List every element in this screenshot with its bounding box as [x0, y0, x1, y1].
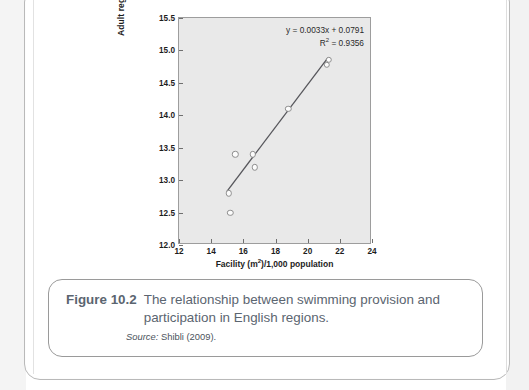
source-text: Shibli (2009).	[161, 331, 216, 342]
figure-source: Source: Shibli (2009).	[126, 331, 468, 342]
y-tick-label: 13.5	[159, 143, 175, 152]
data-point	[232, 151, 238, 157]
y-tick-mark	[179, 50, 183, 51]
y-tick-mark	[179, 148, 183, 149]
x-tick-mark	[308, 239, 309, 243]
y-axis-label: Adult regular participation rate (%)	[116, 0, 126, 36]
data-point	[250, 151, 256, 157]
data-point	[285, 106, 291, 112]
y-tick-label: 12.5	[159, 208, 175, 217]
x-tick-label: 12	[174, 247, 183, 256]
x-tick-label: 24	[367, 247, 376, 256]
figure-caption-box: Figure 10.2 The relationship between swi…	[48, 279, 483, 357]
x-tick-mark	[211, 239, 212, 243]
data-point	[227, 209, 233, 215]
y-tick-label: 15.5	[159, 14, 175, 23]
y-tick-label: 14.0	[159, 111, 175, 120]
figure-caption-text: The relationship between swimming provis…	[144, 291, 468, 327]
scatter-points-layer	[179, 18, 370, 243]
figure-chart: Adult regular participation rate (%) y =…	[130, 8, 400, 270]
x-tick-mark	[276, 239, 277, 243]
page-left-gutter	[0, 0, 26, 390]
y-tick-label: 14.5	[159, 78, 175, 87]
x-axis-label: Facility (m2)/1,000 population	[178, 258, 371, 269]
y-tick-mark	[179, 213, 183, 214]
y-tick-label: 12.0	[159, 241, 175, 250]
y-tick-mark	[179, 83, 183, 84]
data-point	[226, 190, 232, 196]
x-tick-mark	[340, 239, 341, 243]
x-tick-mark	[372, 239, 373, 243]
y-tick-mark	[179, 180, 183, 181]
data-point	[325, 56, 331, 62]
y-tick-mark	[179, 115, 183, 116]
figure-number: Figure 10.2	[66, 291, 137, 309]
x-tick-mark	[179, 239, 180, 243]
y-tick-label: 13.0	[159, 176, 175, 185]
x-tick-label: 20	[303, 247, 312, 256]
y-tick-mark	[179, 18, 183, 19]
y-tick-mark	[179, 245, 183, 246]
x-tick-label: 22	[335, 247, 344, 256]
data-point	[324, 61, 330, 67]
x-tick-label: 16	[239, 247, 248, 256]
x-tick-label: 14	[207, 247, 216, 256]
y-tick-label: 15.0	[159, 46, 175, 55]
x-tick-label: 18	[271, 247, 280, 256]
x-tick-mark	[243, 239, 244, 243]
source-label: Source:	[126, 331, 158, 342]
data-point	[251, 164, 257, 170]
figure-caption: Figure 10.2 The relationship between swi…	[66, 291, 468, 327]
plot-area: y = 0.0033x + 0.0791 R2 = 0.9356 12.012.…	[178, 17, 371, 244]
